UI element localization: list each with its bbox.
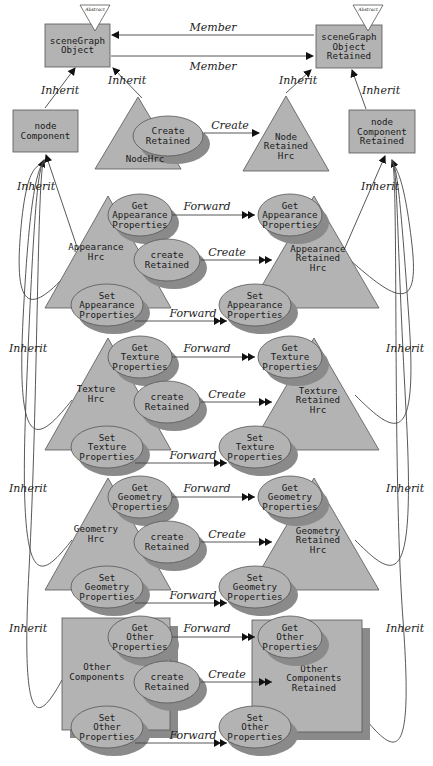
node-component-retained[interactable]: nodeComponentRetained [349, 110, 415, 153]
abstract-label: Abstract [84, 7, 105, 12]
edge-label: Forward [182, 482, 230, 495]
label-line: Properties [79, 591, 134, 602]
label-line: Properties [227, 309, 282, 320]
label-line: Properties [79, 309, 134, 320]
label-line: Properties [112, 501, 167, 512]
label-line: Retained [327, 50, 371, 61]
label-line: Properties [112, 361, 167, 372]
edge-label: Inherit [361, 84, 401, 97]
label-line: Retained [145, 541, 189, 552]
edge-label: Forward [182, 342, 230, 355]
label-line: Properties [227, 451, 282, 462]
get-appearance-properties-retained[interactable]: GetAppearanceProperties [258, 194, 329, 244]
edge-label: Forward [168, 449, 216, 462]
edge-label: Inherit [278, 74, 318, 87]
edge-label: Inherit [385, 622, 425, 635]
get-texture-properties-retained[interactable]: GetTextureProperties [258, 336, 329, 386]
label-line: Retained [146, 135, 190, 146]
label-line: Properties [227, 591, 282, 602]
label-line: Properties [262, 501, 317, 512]
label-line: Component [21, 130, 71, 141]
label-line: Properties [79, 731, 134, 742]
edge-label: Inherit [8, 342, 48, 355]
label-line: Hrc [310, 404, 327, 415]
label-line: Hrc [310, 544, 327, 555]
scene-graph-object-retained[interactable]: sceneGraphObjectRetained [316, 25, 382, 68]
label-line: Retained [145, 681, 189, 692]
edge-label: Inherit [16, 180, 56, 193]
edge-label: Create [208, 388, 246, 401]
get-geometry-properties-retained[interactable]: GetGeometryProperties [258, 476, 329, 526]
node-hrc-label: NodeHrc [126, 153, 165, 164]
edge-label: Create [208, 246, 246, 259]
edge-label: Inherit [40, 84, 80, 97]
label-line: Object [61, 44, 94, 55]
edge-label: Forward [182, 622, 230, 635]
inherit-arrow [344, 156, 385, 250]
edge-label: Create [208, 528, 246, 541]
label-line: Properties [262, 219, 317, 230]
label-line: Properties [227, 731, 282, 742]
label-line: Retained [360, 135, 404, 146]
label-line: Components [69, 671, 124, 682]
edge-label: Member [188, 21, 237, 34]
edge-label: Forward [168, 729, 216, 742]
edge-label: Create [208, 668, 246, 681]
label-line: Hrc [88, 393, 105, 404]
label-line: Hrc [278, 150, 295, 161]
label-line: Hrc [310, 262, 327, 273]
edge-label: Inherit [8, 482, 48, 495]
architecture-diagram: sceneGraphObjectAbstractsceneGraphObject… [0, 0, 433, 766]
label-line: Properties [112, 219, 167, 230]
edge-label: Inherit [360, 180, 400, 193]
label-line: Properties [262, 641, 317, 652]
edge-label: Inherit [385, 342, 425, 355]
edge-label: Forward [168, 589, 216, 602]
label-line: Properties [79, 451, 134, 462]
node-retained-hrc[interactable]: NodeRetainedHrc [243, 96, 329, 171]
label-line: Hrc [88, 533, 105, 544]
abstract-label: Abstract [357, 7, 378, 12]
label-line: Retained [292, 682, 336, 693]
edge-label: Inherit [385, 482, 425, 495]
label-line: Retained [145, 259, 189, 270]
edge-label: Forward [182, 200, 230, 213]
inherit-arrow [46, 155, 78, 250]
label-line: Properties [262, 361, 317, 372]
label-line: Retained [145, 401, 189, 412]
edge-label: Forward [168, 307, 216, 320]
edge-label: Member [188, 60, 237, 73]
edge-label: Inherit [107, 74, 147, 87]
label-line: Properties [112, 641, 167, 652]
scene-graph-object[interactable]: sceneGraphObject [45, 24, 110, 67]
inherit-curve-right [355, 160, 408, 565]
edge-label: Inherit [8, 622, 48, 635]
label-line: Hrc [88, 251, 105, 262]
node-component[interactable]: nodeComponent [13, 110, 78, 152]
edge-label: Create [211, 119, 249, 132]
